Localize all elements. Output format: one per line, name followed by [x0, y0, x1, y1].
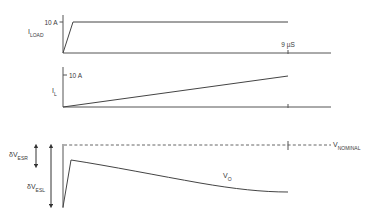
load-current-panel: 10 A ILOAD 9 µS: [28, 15, 331, 54]
output-voltage-panel: VNOMINAL VO δVESR δVESL: [9, 141, 361, 208]
inductor-current-panel: 10 A IL: [52, 67, 331, 108]
load-current-level-label: 10 A: [44, 19, 58, 26]
load-current-waveform: [63, 22, 288, 53]
load-transient-diagram: 10 A ILOAD 9 µS 10 A IL VNOMINAL VO: [0, 0, 374, 215]
nominal-voltage-label: VNOMINAL: [333, 141, 361, 151]
inductor-current-signal-label: IL: [52, 87, 57, 97]
output-voltage-signal-label: VO: [223, 172, 232, 182]
esl-drop-label: δVESL: [27, 183, 45, 193]
output-voltage-waveform: [63, 160, 288, 207]
inductor-current-waveform: [63, 76, 288, 107]
load-current-signal-label: ILOAD: [28, 28, 44, 38]
inductor-current-level-label: 10 A: [69, 72, 83, 79]
esr-drop-label: δVESR: [9, 151, 28, 161]
time-marker-label: 9 µS: [281, 41, 295, 49]
